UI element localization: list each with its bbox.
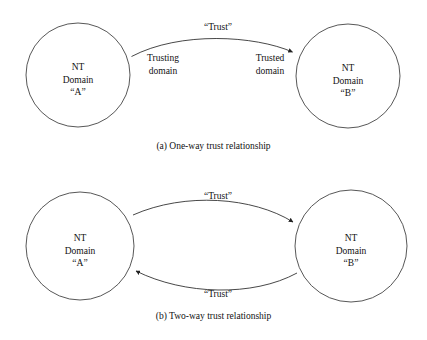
edge-arc-trust-b-upper: [133, 200, 293, 222]
node-label-line: “A”: [40, 257, 120, 270]
panel-caption-a: (a) One-way trust relationship: [0, 141, 427, 151]
edge-label-text: “Trust”: [178, 190, 258, 203]
annotation-line: Trusted: [230, 52, 310, 65]
edge-label-text: “Trust”: [178, 288, 258, 301]
annotation-line: Trusting: [123, 52, 203, 65]
node-label-a-bot: NT Domain “A”: [40, 232, 120, 270]
node-label-line: NT: [311, 232, 391, 245]
node-label-line: NT: [308, 62, 388, 75]
figure-canvas: NT Domain “A” NT Domain “B” “Trust” Trus…: [0, 0, 427, 340]
annotation-line: domain: [230, 65, 310, 78]
node-label-b-top: NT Domain “B”: [308, 62, 388, 100]
node-label-line: Domain: [308, 75, 388, 88]
node-label-line: “B”: [311, 257, 391, 270]
node-label-b-bot: NT Domain “B”: [311, 232, 391, 270]
edge-label-text: “Trust”: [178, 21, 258, 34]
panel-caption-b: (b) Two-way trust relationship: [0, 311, 427, 321]
node-label-a-top: NT Domain “A”: [38, 61, 118, 99]
annotation-trusted-domain: Trusted domain: [230, 52, 310, 77]
edge-label-trust-a: “Trust”: [178, 21, 258, 34]
annotation-trusting-domain: Trusting domain: [123, 52, 203, 77]
edge-label-trust-b-lower: “Trust”: [178, 288, 258, 301]
node-label-line: NT: [38, 61, 118, 74]
edge-label-trust-b-upper: “Trust”: [178, 190, 258, 203]
node-label-line: Domain: [38, 74, 118, 87]
node-label-line: Domain: [40, 245, 120, 258]
node-label-line: “B”: [308, 87, 388, 100]
node-label-line: Domain: [311, 245, 391, 258]
node-label-line: NT: [40, 232, 120, 245]
node-label-line: “A”: [38, 86, 118, 99]
annotation-line: domain: [123, 65, 203, 78]
